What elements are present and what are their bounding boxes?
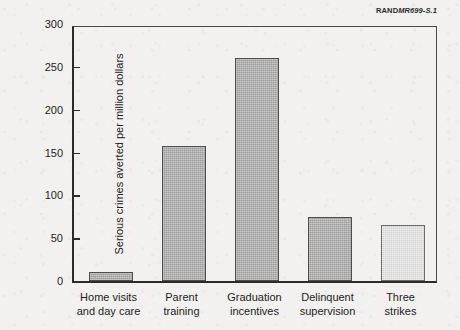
- x-axis-label-line: Three: [364, 291, 437, 305]
- x-axis-label: Parenttraining: [145, 291, 218, 318]
- y-axis-tick-mark: [74, 110, 80, 111]
- y-axis-tick-mark: [74, 238, 80, 239]
- bar: [162, 146, 206, 281]
- figure-document-number: MR699-S.1: [398, 6, 437, 15]
- y-axis-tick-mark: [74, 67, 80, 68]
- y-axis-tick-label: 250: [45, 61, 63, 73]
- x-axis-label-line: Graduation: [218, 291, 291, 305]
- y-axis-tick-mark: [74, 195, 80, 196]
- x-axis-label: Delinquentsupervision: [291, 291, 364, 318]
- y-axis-tick-label: 200: [45, 104, 63, 116]
- rand-logo-text: RAND: [376, 6, 398, 15]
- x-axis-label-line: Parent: [145, 291, 218, 305]
- y-axis-tick-label: 150: [45, 147, 63, 159]
- x-axis-label-line: and day care: [72, 305, 145, 319]
- y-axis-tick-label: 300: [45, 18, 63, 30]
- y-axis-tick-mark: [74, 153, 80, 154]
- y-axis-tick-label: 0: [57, 275, 63, 287]
- x-axis-label: Threestrikes: [364, 291, 437, 318]
- x-axis-label-line: Delinquent: [291, 291, 364, 305]
- y-axis-title: Serious crimes averted per million dolla…: [113, 53, 125, 254]
- y-axis-tick-label: 100: [45, 189, 63, 201]
- bar: [381, 225, 425, 281]
- bar: [235, 58, 279, 281]
- figure-identifier: RANDMR699-S.1: [376, 6, 437, 15]
- x-axis-label: Home visitsand day care: [72, 291, 145, 318]
- x-axis-label: Graduationincentives: [218, 291, 291, 318]
- y-axis-tick-label: 50: [51, 232, 63, 244]
- x-axis-label-line: Home visits: [72, 291, 145, 305]
- x-axis-label-line: supervision: [291, 305, 364, 319]
- x-axis-label-line: training: [145, 305, 218, 319]
- x-axis-label-line: incentives: [218, 305, 291, 319]
- bar: [308, 217, 352, 281]
- bar: [89, 272, 133, 281]
- x-axis-label-line: strikes: [364, 305, 437, 319]
- plot-area: Serious crimes averted per million dolla…: [72, 26, 437, 283]
